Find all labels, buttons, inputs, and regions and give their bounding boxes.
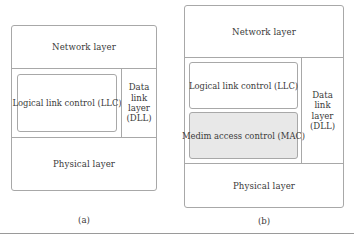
- panel-b-dll-line-1: Data: [312, 90, 333, 100]
- panel-a-dll-line-1: Data: [129, 82, 150, 92]
- panel-b-network-layer-band: Network layer: [185, 6, 343, 57]
- panel-a-physical-layer-label: Physical layer: [53, 159, 115, 169]
- panel-b-dll-line-4: (DLL): [310, 121, 335, 131]
- panel-a-llc-label: Logical link control (LLC): [12, 98, 121, 108]
- panel-b-dll-line-2: link: [314, 100, 330, 110]
- panel-a-dll-column-label: Data link layer (DLL): [121, 69, 156, 137]
- panel-b-dll-column-label: Data link layer (DLL): [301, 58, 343, 163]
- panel-b: Network layer Logical link control (LLC)…: [184, 5, 344, 208]
- panel-a-dll-sublayer-column: Logical link control (LLC): [12, 69, 121, 137]
- panel-b-mac-label: Medim access control (MAC): [182, 131, 305, 141]
- panel-a-network-layer-band: Network layer: [12, 26, 156, 68]
- panel-a-network-layer-label: Network layer: [52, 42, 116, 52]
- panel-a: Network layer Logical link control (LLC)…: [11, 25, 157, 191]
- panel-a-dll-line-4: (DLL): [126, 113, 151, 123]
- panel-b-dll-line-3: layer: [312, 111, 334, 121]
- panel-b-llc-box: Logical link control (LLC): [189, 62, 298, 109]
- protocol-stack-figure: Network layer Logical link control (LLC)…: [0, 0, 354, 238]
- panel-b-caption: (b): [184, 216, 344, 226]
- panel-b-physical-layer-label: Physical layer: [233, 181, 295, 191]
- panel-b-data-link-layer-band: Logical link control (LLC) Medim access …: [185, 57, 343, 163]
- bottom-divider-rule: [0, 233, 354, 234]
- panel-b-physical-layer-band: Physical layer: [185, 163, 343, 207]
- panel-b-llc-label: Logical link control (LLC): [189, 81, 298, 91]
- panel-b-mac-box: Medim access control (MAC): [189, 112, 298, 159]
- panel-a-caption: (a): [0, 215, 168, 225]
- panel-a-dll-line-2: link: [131, 93, 147, 103]
- panel-a-dll-line-3: layer: [128, 103, 150, 113]
- panel-a-data-link-layer-band: Logical link control (LLC) Data link lay…: [12, 68, 156, 137]
- panel-b-dll-sublayer-column: Logical link control (LLC) Medim access …: [185, 58, 301, 163]
- panel-a-llc-box: Logical link control (LLC): [17, 74, 117, 132]
- panel-a-physical-layer-band: Physical layer: [12, 137, 156, 190]
- panel-b-network-layer-label: Network layer: [232, 27, 296, 37]
